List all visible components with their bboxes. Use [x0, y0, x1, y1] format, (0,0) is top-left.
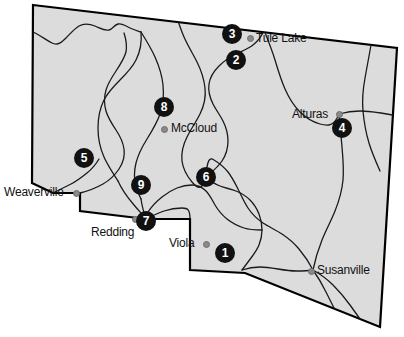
map-marker-6[interactable]: 6: [196, 167, 216, 187]
city-dot-alturas[interactable]: [336, 111, 343, 118]
city-label-susanville: Susanville: [317, 264, 370, 276]
city-label-weaverville: Weaverville: [4, 186, 64, 198]
city-dot-mccloud[interactable]: [161, 126, 168, 133]
city-dot-susanville[interactable]: [308, 268, 315, 275]
map-marker-7[interactable]: 7: [136, 211, 156, 231]
map-marker-9[interactable]: 9: [131, 175, 151, 195]
city-label-mccloud: McCloud: [171, 122, 217, 134]
city-dot-weaverville[interactable]: [73, 190, 80, 197]
map-marker-8[interactable]: 8: [154, 97, 174, 117]
map-marker-5[interactable]: 5: [74, 148, 94, 168]
city-dot-tule-lake[interactable]: [247, 35, 254, 42]
map-container: Tule LakeAlturasMcCloudWeavervilleReddin…: [0, 0, 404, 337]
map-marker-1[interactable]: 1: [215, 243, 235, 263]
map-marker-2[interactable]: 2: [226, 50, 246, 70]
city-label-redding: Redding: [91, 226, 134, 238]
city-dot-viola[interactable]: [203, 241, 210, 248]
city-label-tule-lake: Tule Lake: [256, 32, 306, 44]
city-label-alturas: Alturas: [292, 108, 328, 120]
map-marker-3[interactable]: 3: [222, 24, 242, 44]
city-label-viola: Viola: [169, 237, 194, 249]
map-marker-4[interactable]: 4: [332, 118, 352, 138]
